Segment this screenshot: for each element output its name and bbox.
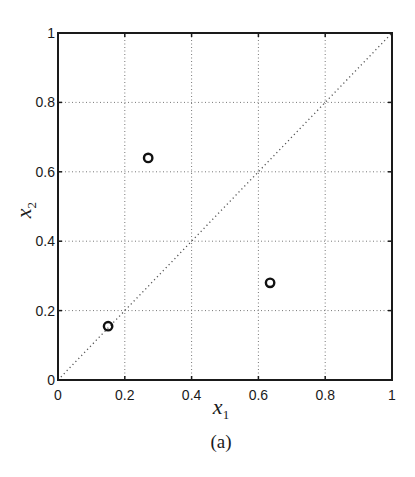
figure-caption: (a) <box>210 431 231 453</box>
data-point-marker <box>266 279 274 287</box>
x-tick-label: 0.8 <box>315 387 335 403</box>
y-tick-label: 0 <box>47 372 55 388</box>
x-tick-label: 1 <box>388 387 396 403</box>
y-tick-label: 0.8 <box>36 94 56 110</box>
y-tick-label: 0.4 <box>36 233 56 249</box>
y-axis-label: x2 <box>11 202 39 219</box>
x-tick-label: 0.4 <box>182 387 202 403</box>
data-point-marker <box>144 154 152 162</box>
scatter-figure: 00.20.40.60.81 00.20.40.60.81 x1 x2 (a) <box>0 0 415 477</box>
diagonal-reference-line <box>58 33 392 380</box>
y-tick-label: 0.2 <box>36 303 56 319</box>
data-points <box>104 154 274 331</box>
x-axis-label: x1 <box>212 394 229 422</box>
scatter-chart: 00.20.40.60.81 00.20.40.60.81 x1 x2 (a) <box>0 0 415 477</box>
data-point-marker <box>104 322 112 330</box>
x-tick-label: 0.6 <box>249 387 269 403</box>
x-tick-labels: 00.20.40.60.81 <box>54 387 396 403</box>
y-tick-label: 1 <box>47 25 55 41</box>
x-tick-label: 0 <box>54 387 62 403</box>
x-tick-label: 0.2 <box>115 387 135 403</box>
y-tick-label: 0.6 <box>36 164 56 180</box>
